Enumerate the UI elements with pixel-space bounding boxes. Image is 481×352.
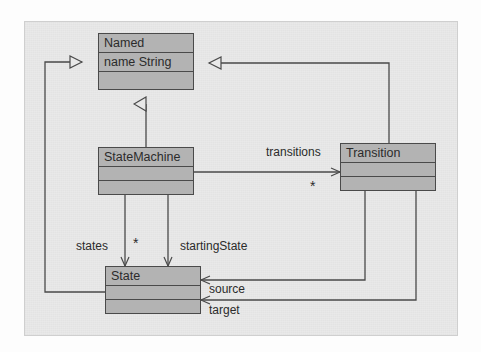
uml-class-named[interactable]: Named name String [98,33,194,90]
class-attributes-compartment-transition [341,163,435,177]
association-transition-source [201,191,365,280]
class-attributes-compartment-statemachine [99,167,193,181]
edge-label-transitions: transitions [266,146,321,159]
class-operations-compartment-named [99,72,193,89]
generalization-state-to-named [45,62,105,292]
class-attribute-name-string: name String [99,53,193,72]
class-name-state: State [106,267,200,286]
edge-label-states: states [76,240,108,253]
class-operations-compartment-transition [341,177,435,190]
class-name-statemachine: StateMachine [99,148,193,167]
uml-class-state[interactable]: State [105,266,201,314]
multiplicity-transitions: * [310,180,315,193]
class-name-named: Named [99,34,193,53]
class-attributes-compartment-state [106,286,200,300]
multiplicity-states: * [133,237,138,250]
generalization-transition-to-named [209,63,389,143]
uml-class-statemachine[interactable]: StateMachine [98,147,194,195]
edge-label-target: target [209,304,240,317]
edge-label-startingstate: startingState [180,240,247,253]
diagram-canvas: Named name String StateMachine Transitio… [0,0,481,352]
class-operations-compartment-state [106,300,200,313]
edge-label-source: source [209,283,245,296]
uml-class-transition[interactable]: Transition [340,143,436,191]
class-name-transition: Transition [341,144,435,163]
class-operations-compartment-statemachine [99,181,193,194]
